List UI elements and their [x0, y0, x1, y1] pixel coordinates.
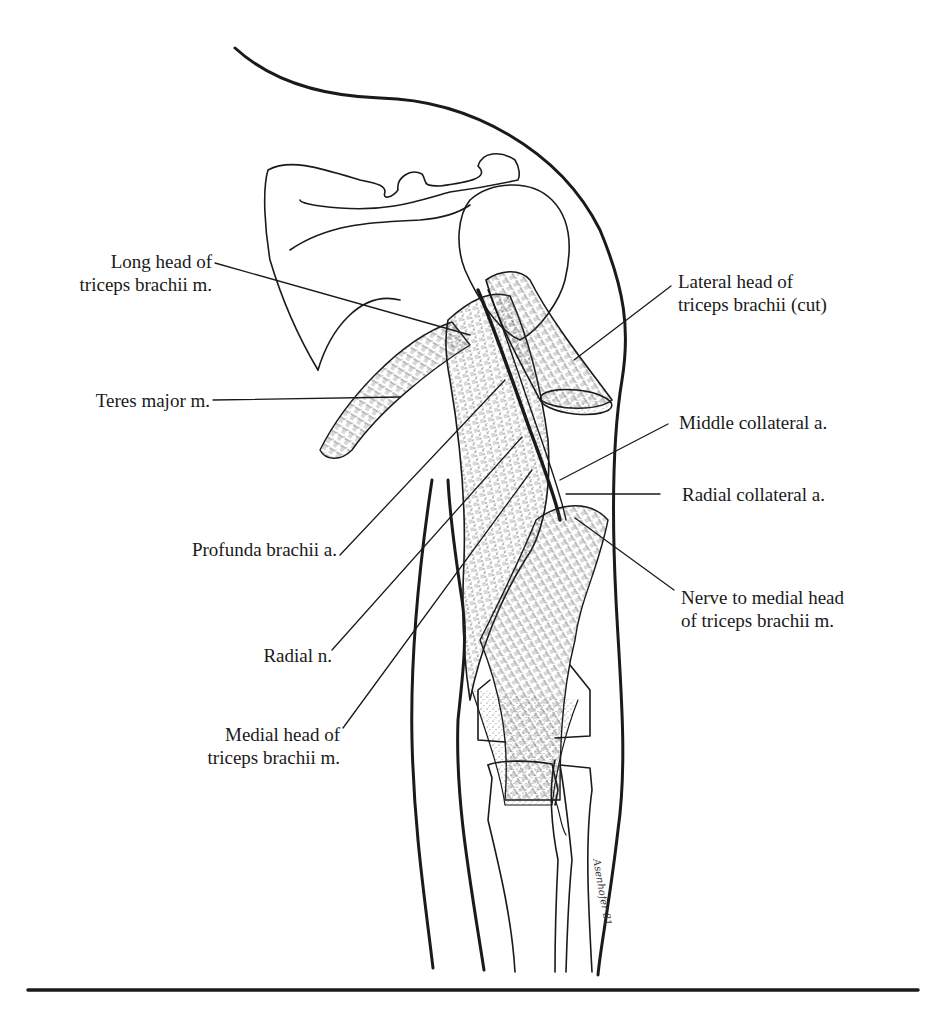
- label-line: Lateral head of: [678, 270, 827, 293]
- label-line: triceps brachii m.: [80, 273, 212, 296]
- label-long-head-triceps: Long head of triceps brachii m.: [80, 250, 212, 296]
- label-line: triceps brachii (cut): [678, 293, 827, 316]
- label-teres-major: Teres major m.: [96, 389, 210, 412]
- label-lateral-head-triceps: Lateral head of triceps brachii (cut): [678, 270, 827, 316]
- label-line: Medial head of: [208, 723, 340, 746]
- label-medial-head-triceps: Medial head of triceps brachii m.: [208, 723, 340, 769]
- skin-outline-left-outer: [412, 480, 433, 968]
- label-line: Radial collateral a.: [682, 483, 825, 506]
- label-line: Long head of: [80, 250, 212, 273]
- label-line: Middle collateral a.: [679, 411, 827, 434]
- label-line: Radial n.: [263, 644, 332, 667]
- label-radial-nerve: Radial n.: [263, 644, 332, 667]
- radius: [560, 765, 592, 972]
- label-line: of triceps brachii m.: [681, 609, 844, 632]
- label-line: Teres major m.: [96, 389, 210, 412]
- label-line: triceps brachii m.: [208, 746, 340, 769]
- label-middle-collateral-artery: Middle collateral a.: [679, 411, 827, 434]
- label-line: Nerve to medial head: [681, 586, 844, 609]
- triceps-tendon: [472, 690, 578, 805]
- label-radial-collateral-artery: Radial collateral a.: [682, 483, 825, 506]
- label-nerve-medial-head: Nerve to medial head of triceps brachii …: [681, 586, 844, 632]
- scapula-spine: [290, 205, 470, 250]
- leader-long-head: [215, 263, 470, 335]
- radius-notch: [555, 800, 566, 835]
- label-profunda-brachii: Profunda brachii a.: [192, 538, 337, 561]
- arm-anatomy-illustration: [0, 0, 935, 1015]
- scapula-lower: [318, 298, 400, 370]
- label-line: Profunda brachii a.: [192, 538, 337, 561]
